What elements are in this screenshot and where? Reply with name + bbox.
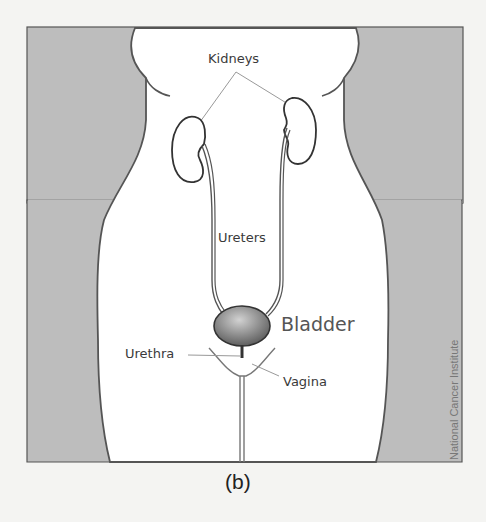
label-kidneys: Kidneys [208, 51, 259, 66]
label-urethra: Urethra [125, 346, 174, 361]
label-ureters: Ureters [218, 230, 266, 245]
label-bladder: Bladder [281, 313, 355, 335]
bladder-shape [214, 306, 270, 346]
figure-caption: (b) [225, 470, 251, 494]
kidney-left-shape [172, 117, 205, 182]
credit-text: National Cancer Institute [448, 340, 460, 460]
urinary-system-diagram [0, 0, 486, 522]
label-vagina: Vagina [283, 374, 327, 389]
